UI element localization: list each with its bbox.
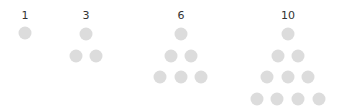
dot-3 (80, 28, 93, 41)
dot-10 (271, 93, 284, 106)
dot-3 (90, 50, 103, 63)
group-label-3: 3 (83, 10, 90, 21)
dot-10 (272, 50, 285, 63)
dot-1 (19, 27, 32, 40)
dot-6 (175, 28, 188, 41)
group-label-6: 6 (178, 10, 185, 21)
dot-6 (185, 50, 198, 63)
dot-6 (175, 71, 188, 84)
dot-10 (292, 50, 305, 63)
dot-10 (282, 28, 295, 41)
dot-10 (292, 93, 305, 106)
dot-6 (195, 71, 208, 84)
dot-10 (282, 71, 295, 84)
dot-6 (165, 50, 178, 63)
dot-10 (313, 93, 326, 106)
dot-10 (302, 71, 315, 84)
group-label-10: 10 (281, 10, 295, 21)
dot-6 (154, 71, 167, 84)
dot-10 (251, 93, 264, 106)
dot-10 (261, 71, 274, 84)
group-label-1: 1 (22, 10, 29, 21)
dot-3 (70, 50, 83, 63)
triangular-numbers-diagram: 1 3 6 10 (0, 0, 341, 111)
